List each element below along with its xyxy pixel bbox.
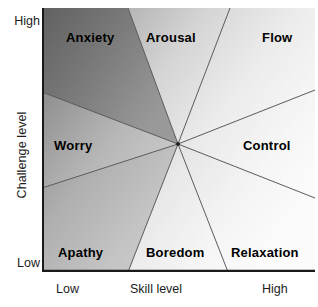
sector-label-relaxation: Relaxation xyxy=(231,245,299,260)
sector-label-arousal: Arousal xyxy=(146,30,196,45)
sector-label-worry: Worry xyxy=(54,138,92,153)
y-axis-tick-high: High xyxy=(2,14,40,28)
sector-label-boredom: Boredom xyxy=(146,245,204,260)
flow-model-diagram: Challenge level High Low Low Skill level… xyxy=(0,0,318,307)
sector-label-anxiety: Anxiety xyxy=(66,30,114,45)
x-axis-tick-low: Low xyxy=(56,282,79,296)
sector-label-flow: Flow xyxy=(262,30,292,45)
x-axis-tick-high: High xyxy=(262,282,288,296)
y-axis-label: Challenge level xyxy=(15,90,29,220)
sector-label-apathy: Apathy xyxy=(58,245,103,260)
center-point xyxy=(176,142,180,146)
plot-area: Anxiety Arousal Flow Worry Control Apath… xyxy=(42,8,315,272)
sector-label-control: Control xyxy=(243,138,291,153)
x-axis-label: Skill level xyxy=(130,282,182,296)
y-axis-tick-low: Low xyxy=(2,256,40,270)
